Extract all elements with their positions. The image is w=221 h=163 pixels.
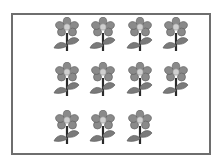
flower-icon	[161, 17, 191, 53]
flower-icon	[52, 62, 82, 98]
flower-icon	[52, 110, 82, 146]
flower-icon	[88, 62, 118, 98]
flower-icon	[125, 110, 155, 146]
flower-icon	[125, 17, 155, 53]
flower-icon	[52, 17, 82, 53]
flower-icon	[88, 110, 118, 146]
flower-icon	[88, 17, 118, 53]
flower-icon	[161, 62, 191, 98]
flower-icon	[125, 62, 155, 98]
